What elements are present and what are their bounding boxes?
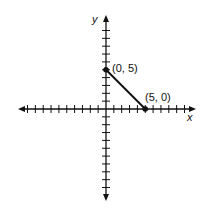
x-axis-label: x xyxy=(187,112,193,123)
point-marker xyxy=(103,67,109,73)
arrow-left-icon xyxy=(18,106,25,112)
point-label-a: (0, 5) xyxy=(112,63,138,74)
y-axis-label: y xyxy=(92,14,98,25)
point-marker xyxy=(142,106,148,112)
coordinate-plane xyxy=(0,0,210,212)
point-label-b: (5, 0) xyxy=(145,92,171,103)
arrow-down-icon xyxy=(103,194,109,201)
arrow-up-icon xyxy=(103,15,109,22)
line-segment xyxy=(106,70,145,109)
